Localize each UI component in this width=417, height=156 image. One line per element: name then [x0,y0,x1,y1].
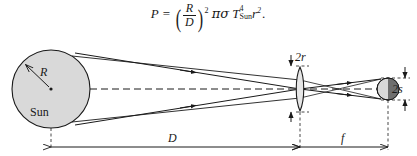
image-size-label: 2s [392,82,403,96]
lens [296,67,304,111]
sun-body-label: Sun [30,105,49,119]
ray-diagram: R Sun 2r 2s [0,0,417,156]
beam-edge-lower [72,98,300,122]
aperture-label: 2r [295,50,306,64]
ray-out-lower-arrowhead [336,94,352,96]
dimension-f-label: f [341,131,346,145]
dimension-D-label: D [167,131,177,145]
beam-edge-upper [72,56,300,80]
ray-out-upper-arrowhead [336,83,352,85]
sun-center-dot [49,87,52,90]
figure-root: P = (RD)2 πσ T4Sunr2. R Sun [0,0,417,156]
sun-radius-label: R [39,65,48,79]
ray-top-arrowhead [180,70,196,73]
ray-bottom-arrowhead [180,105,196,108]
